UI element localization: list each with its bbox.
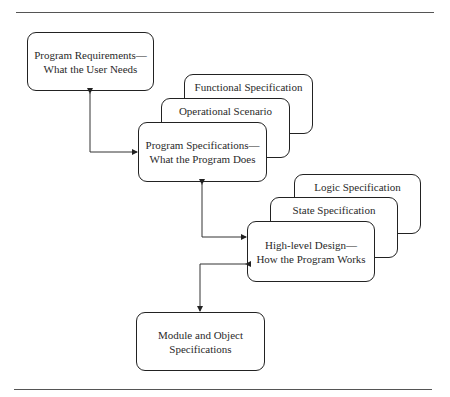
arrow-high-level-design-to-module [200,264,246,311]
connector-arrows [0,0,450,397]
arrow-program-spec-to-high-level-design [202,184,246,237]
arrow-requirements-to-program-spec [90,93,137,152]
